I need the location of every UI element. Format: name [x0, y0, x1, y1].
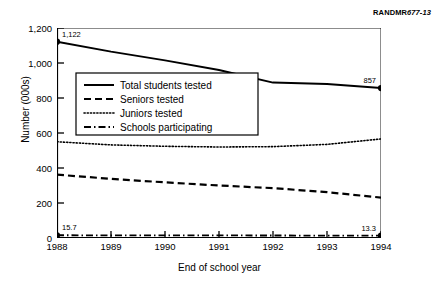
series-line-dashed [57, 175, 381, 198]
figure-id-suffix: 677-13 [407, 8, 431, 17]
plot-area: 1,12285715.713.3Total students testedSen… [57, 28, 381, 238]
figure-id-label: RANDMR677-13 [373, 8, 431, 17]
data-annotation: 857 [363, 76, 376, 85]
data-annotation: 15.7 [62, 223, 77, 232]
legend-label: Schools participating [120, 122, 212, 133]
x-axis-ticks: 1988198919901991199219931994 [57, 241, 381, 255]
data-annotation: 1,122 [62, 30, 81, 39]
y-axis-title: Number (000s) [20, 55, 31, 165]
data-annotation: 13.3 [361, 224, 376, 233]
x-tick-label: 1990 [145, 241, 185, 252]
data-point-marker [57, 39, 60, 45]
x-tick-label: 1993 [307, 241, 347, 252]
series-line-dotted [57, 139, 381, 147]
legend-label: Total students tested [120, 80, 212, 91]
x-tick-label: 1988 [37, 241, 77, 252]
data-point-marker [378, 233, 381, 238]
x-tick-label: 1994 [361, 241, 401, 252]
y-tick-label: 1,200 [20, 23, 52, 34]
x-tick-label: 1991 [199, 241, 239, 252]
y-tick-label: 200 [20, 198, 52, 209]
chart-figure: RANDMR677-13 02004006008001,0001,200 Num… [0, 0, 439, 284]
plot-svg: 1,12285715.713.3Total students testedSen… [57, 28, 381, 238]
x-tick-label: 1989 [91, 241, 131, 252]
x-axis-title: End of school year [0, 262, 439, 273]
figure-id-prefix: RANDMR [373, 8, 407, 17]
x-tick-label: 1992 [253, 241, 293, 252]
legend-label: Seniors tested [120, 94, 184, 105]
legend-label: Juniors tested [120, 108, 182, 119]
data-point-marker [378, 85, 381, 91]
